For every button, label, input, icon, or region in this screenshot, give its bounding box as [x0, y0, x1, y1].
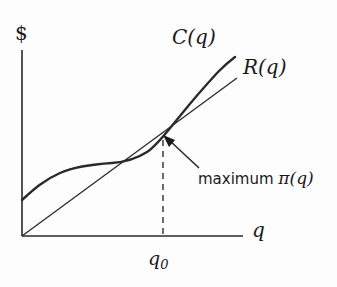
figure-canvas: [0, 0, 337, 287]
maximum-profit-annotation: maximum π(q): [198, 170, 314, 187]
revenue-curve-label: R(q): [243, 57, 286, 77]
annotation-arrowhead: [163, 135, 175, 147]
cost-curve-label: C(q): [172, 27, 216, 47]
q0-subscript: 0: [160, 257, 168, 272]
annotation-profit-symbol: π(q): [278, 168, 313, 188]
annotation-leader-line: [169, 140, 199, 168]
revenue-line: [22, 78, 237, 236]
y-axis-label: $: [15, 23, 28, 43]
q0-base: q: [148, 247, 160, 269]
q0-tick-label: q0: [148, 249, 168, 271]
annotation-prefix-text: maximum: [198, 170, 278, 188]
x-axis-label: q: [252, 220, 265, 240]
economics-cost-revenue-figure: $ q C(q) R(q) q0 maximum π(q): [0, 0, 337, 287]
